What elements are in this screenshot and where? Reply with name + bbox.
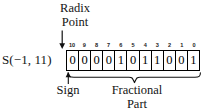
bit-field: 0 0 0 0 1 0 1 1 0 0 1	[66, 50, 200, 71]
bit-cell: 1	[140, 51, 152, 70]
bit-index-label: 0	[188, 41, 200, 50]
bit-index-label: 8	[90, 41, 102, 50]
fractional-part-caption-line2: Part	[96, 97, 178, 111]
fractional-part-brace	[66, 70, 202, 82]
bit-cell: 0	[67, 51, 79, 70]
bit-index-label: 6	[115, 41, 127, 50]
bit-index-label: 10	[66, 41, 78, 50]
format-label: S(−1, 11)	[2, 52, 52, 67]
bit-cell: 0	[91, 51, 103, 70]
figure-canvas: Radix Point S(−1, 11) 10 9 8 7 6 5 4 3 2…	[0, 0, 211, 112]
radix-point-caption-line2: Point	[44, 15, 106, 29]
bit-cell: 0	[176, 51, 188, 70]
bit-index-label: 5	[127, 41, 139, 50]
bit-index-label: 3	[151, 41, 163, 50]
radix-point-caption: Radix Point	[44, 1, 106, 29]
bit-index-ruler: 10 9 8 7 6 5 4 3 2 1 0	[66, 41, 200, 50]
bit-cell: 1	[188, 51, 199, 70]
sign-caption: Sign	[36, 83, 100, 97]
bit-cell: 0	[164, 51, 176, 70]
bit-cell: 1	[115, 51, 127, 70]
bit-index-label: 1	[176, 41, 188, 50]
bit-index-label: 4	[139, 41, 151, 50]
bit-cell: 0	[127, 51, 139, 70]
fractional-part-caption-line1: Fractional	[96, 83, 178, 97]
radix-point-caption-line1: Radix	[44, 1, 106, 15]
bit-index-label: 7	[103, 41, 115, 50]
fractional-part-caption: Fractional Part	[96, 83, 178, 111]
bit-cell: 1	[152, 51, 164, 70]
bit-cell: 0	[103, 51, 115, 70]
bit-index-label: 9	[78, 41, 90, 50]
bit-cell: 0	[79, 51, 91, 70]
bit-index-label: 2	[164, 41, 176, 50]
